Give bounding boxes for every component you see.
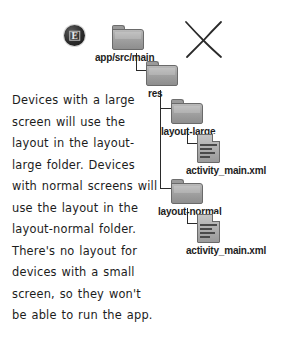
hand-drawn-x-icon [183,18,225,60]
xml-file-icon-layout-large[interactable] [197,134,220,163]
diagram-canvas: E app/src/main res layout-large [0,0,299,357]
folder-icon-res[interactable] [146,61,178,86]
folder-body [112,29,144,50]
connector-line [160,90,161,189]
folder-body [171,103,203,124]
folder-icon-layout-normal[interactable] [171,179,203,204]
file-text-lines [200,224,217,240]
folder-body [171,183,203,204]
badge-glyph: E [69,30,80,41]
circle-badge-icon: E [64,25,85,46]
file-fold-corner [212,134,220,142]
folder-body [146,65,178,86]
file-text-lines [200,144,217,160]
handwritten-note: Devices with a large screen will use the… [12,90,158,327]
file-label-layout-normal: activity_main.xml [186,245,266,256]
folder-icon-layout-large[interactable] [171,99,203,124]
folder-icon-app-src-main[interactable] [112,25,144,50]
file-fold-corner [212,214,220,222]
file-label-layout-large: activity_main.xml [186,165,266,176]
xml-file-icon-layout-normal[interactable] [197,214,220,243]
